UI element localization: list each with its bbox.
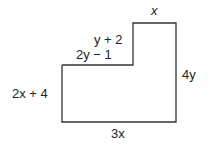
label-bottom: 3x (111, 127, 125, 140)
label-step-horizontal: 2y − 1 (76, 48, 112, 61)
label-top: x (151, 4, 158, 17)
label-right: 4y (182, 68, 196, 81)
l-shape-figure (0, 0, 210, 149)
label-step-vertical: y + 2 (94, 33, 123, 46)
label-left: 2x + 4 (12, 87, 48, 100)
